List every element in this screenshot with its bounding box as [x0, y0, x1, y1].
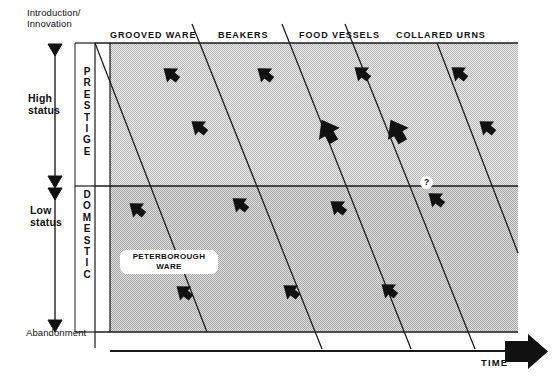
category-label-1: BEAKERS [218, 30, 268, 40]
prestige-letter: E [80, 146, 94, 157]
axis-label-time: TIME [481, 357, 508, 368]
peterborough-ware-label: PETERBOROUGH WARE [120, 250, 218, 274]
domestic-letter: S [80, 235, 94, 246]
category-label-0: GROOVED WARE [110, 30, 196, 40]
domestic-letter: D [80, 189, 94, 200]
domestic-letter: T [80, 246, 94, 257]
category-label-2: FOOD VESSELS [299, 30, 380, 40]
axis-label-low-status: Low status [30, 204, 62, 228]
band-label-prestige: PRESTIGE [80, 66, 94, 157]
prestige-letter: R [80, 77, 94, 88]
prestige-letter: G [80, 134, 94, 145]
prestige-letter: E [80, 89, 94, 100]
figure-canvas: Introduction/ Innovation High status Low… [0, 0, 558, 383]
axis-label-high-status: High status [28, 92, 60, 116]
shaded-bands [110, 43, 518, 332]
status-axis-arrows [48, 44, 62, 332]
category-label-3: COLLARED URNS [396, 30, 486, 40]
prestige-letter: S [80, 100, 94, 111]
domestic-letter: C [80, 269, 94, 280]
prestige-letter: P [80, 66, 94, 77]
domestic-letter: M [80, 212, 94, 223]
prestige-letter: T [80, 112, 94, 123]
time-arrow-icon [505, 334, 548, 369]
axis-label-abandonment: Abandonment [26, 328, 86, 339]
domestic-letter: I [80, 257, 94, 268]
band-label-domestic: DOMESTIC [80, 189, 94, 280]
domestic-letter: O [80, 200, 94, 211]
domestic-letter: E [80, 223, 94, 234]
prestige-letter: I [80, 123, 94, 134]
uncertainty-marker: ? [420, 176, 433, 189]
axis-label-introduction: Introduction/ Innovation [27, 8, 81, 30]
